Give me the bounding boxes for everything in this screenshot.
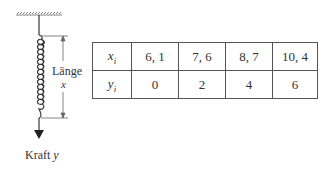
table-row-x: xi 6, 1 7, 6 8, 7 10, 4	[93, 43, 318, 71]
table-cell: 4	[226, 71, 273, 99]
table-cell: 10, 4	[273, 43, 318, 71]
table-cell: 6, 1	[132, 43, 179, 71]
force-label: Kraft y	[25, 148, 59, 163]
spring-diagram: Länge x Kraft y xi 6, 1 7, 6 8, 7 10, 4 …	[0, 0, 333, 170]
table-header-y: yi	[93, 71, 132, 99]
table-cell: 2	[179, 71, 226, 99]
data-table: xi 6, 1 7, 6 8, 7 10, 4 yi 0 2 4 6	[92, 42, 318, 99]
length-variable: x	[61, 78, 66, 90]
table-cell: 6	[273, 71, 318, 99]
length-label: Länge	[52, 64, 82, 79]
force-label-text: Kraft	[25, 148, 50, 162]
force-arrow-icon	[34, 130, 44, 139]
table-cell: 0	[132, 71, 179, 99]
ceiling-icon	[16, 12, 62, 15]
table-cell: 7, 6	[179, 43, 226, 71]
table-row-y: yi 0 2 4 6	[93, 71, 318, 99]
table-header-x: xi	[93, 43, 132, 71]
spring-icon	[37, 15, 44, 131]
force-variable: y	[53, 148, 58, 162]
table-cell: 8, 7	[226, 43, 273, 71]
